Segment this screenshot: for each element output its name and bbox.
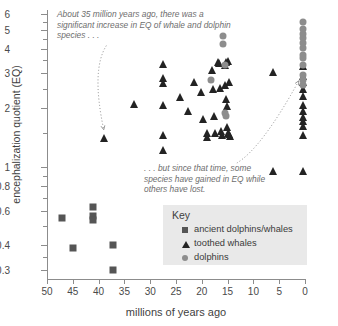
data-point-square — [90, 204, 97, 211]
data-point-triangle — [225, 78, 233, 86]
y-tick — [41, 73, 47, 74]
data-point-triangle — [184, 107, 192, 115]
y-tick-minor — [43, 226, 47, 227]
x-tick-label: 30 — [145, 286, 156, 297]
x-tick-label: 15 — [222, 286, 233, 297]
data-point-triangle — [299, 122, 307, 130]
data-point-circle — [220, 40, 227, 47]
x-tick — [305, 279, 306, 284]
y-tick — [41, 49, 47, 50]
legend-label-toothed: toothed whales — [194, 238, 257, 248]
y-tick-minor — [43, 39, 47, 40]
square-marker-icon — [182, 227, 188, 233]
data-point-triangle — [208, 66, 216, 74]
data-point-triangle — [130, 100, 138, 108]
y-tick — [41, 108, 47, 109]
y-tick-label: 0.6 — [0, 205, 10, 216]
x-tick — [99, 279, 100, 284]
y-tick — [41, 245, 47, 246]
y-tick — [41, 14, 47, 15]
circle-marker-icon — [182, 255, 188, 261]
x-axis-title: millions of years ago — [47, 306, 305, 318]
data-point-triangle — [299, 167, 307, 175]
y-tick-label: 6 — [0, 9, 10, 20]
x-tick — [202, 279, 203, 284]
scatter-chart-figure: 0.30.40.60.8123456 50454035302520151050 … — [0, 0, 338, 326]
y-tick — [41, 167, 47, 168]
y-tick-label: 0.8 — [0, 181, 10, 192]
data-point-square — [90, 216, 97, 223]
data-point-square — [110, 242, 117, 249]
y-axis-title: encephalization quotient (EQ) — [10, 0, 24, 269]
x-tick — [150, 279, 151, 284]
data-point-triangle — [210, 112, 218, 120]
legend-title: Key — [172, 209, 190, 221]
x-tick-label: 35 — [119, 286, 130, 297]
x-tick — [73, 279, 74, 284]
legend-label-ancient: ancient dolphins/whales — [194, 224, 293, 234]
y-tick — [41, 30, 47, 31]
x-tick — [279, 279, 280, 284]
y-tick-minor — [43, 89, 47, 90]
x-tick — [176, 279, 177, 284]
x-tick-label: 50 — [41, 286, 52, 297]
data-point-triangle — [199, 115, 207, 123]
annotation-increase-text: About 35 million years ago, there was a … — [57, 9, 232, 41]
data-point-triangle — [159, 131, 167, 139]
data-point-triangle — [159, 60, 167, 68]
x-tick-label: 0 — [302, 286, 308, 297]
x-tick-label: 10 — [248, 286, 259, 297]
y-tick-minor — [43, 257, 47, 258]
y-tick — [41, 186, 47, 187]
x-tick-label: 20 — [196, 286, 207, 297]
y-tick-label: 3 — [0, 68, 10, 79]
data-point-triangle — [223, 102, 231, 110]
x-tick-label: 45 — [67, 286, 78, 297]
data-point-circle — [300, 81, 307, 88]
data-point-circle — [208, 76, 215, 83]
data-point-circle — [300, 61, 307, 68]
data-point-triangle — [269, 68, 277, 76]
annotation-gain-loss-text: . . . but since that time, some species … — [144, 163, 279, 195]
y-tick-label: 5 — [0, 24, 10, 35]
x-tick — [124, 279, 125, 284]
data-point-triangle — [299, 131, 307, 139]
y-tick-minor — [43, 22, 47, 23]
y-tick-label: 0.4 — [0, 240, 10, 251]
data-point-circle — [221, 62, 228, 69]
legend-box: Key ancient dolphins/whales toothed whal… — [163, 205, 307, 265]
data-point-triangle — [159, 101, 167, 109]
y-tick-minor — [43, 60, 47, 61]
data-point-triangle — [299, 92, 307, 100]
y-tick — [41, 211, 47, 212]
y-tick-label: 2 — [0, 102, 10, 113]
y-tick-label: 0.3 — [0, 265, 10, 276]
data-point-circle — [300, 44, 307, 51]
x-tick — [253, 279, 254, 284]
x-tick-label: 5 — [276, 286, 282, 297]
data-point-square — [59, 215, 66, 222]
data-point-triangle — [190, 78, 198, 86]
y-tick-label: 1 — [0, 162, 10, 173]
data-point-circle — [223, 113, 230, 120]
data-point-triangle — [100, 134, 108, 142]
y-tick-minor — [43, 176, 47, 177]
triangle-marker-icon — [182, 241, 190, 248]
y-tick — [41, 270, 47, 271]
x-tick-label: 25 — [170, 286, 181, 297]
y-tick-minor — [43, 133, 47, 134]
data-point-triangle — [159, 79, 167, 87]
y-tick-minor — [43, 198, 47, 199]
data-point-square — [69, 244, 76, 251]
y-tick-label: 4 — [0, 43, 10, 54]
data-point-triangle — [176, 93, 184, 101]
x-tick — [47, 279, 48, 284]
data-point-triangle — [226, 132, 234, 140]
data-point-square — [110, 267, 117, 274]
data-point-triangle — [197, 88, 205, 96]
x-tick-label: 40 — [93, 286, 104, 297]
data-point-triangle — [159, 146, 167, 154]
legend-label-dolphins: dolphins — [194, 252, 229, 262]
x-tick — [228, 279, 229, 284]
